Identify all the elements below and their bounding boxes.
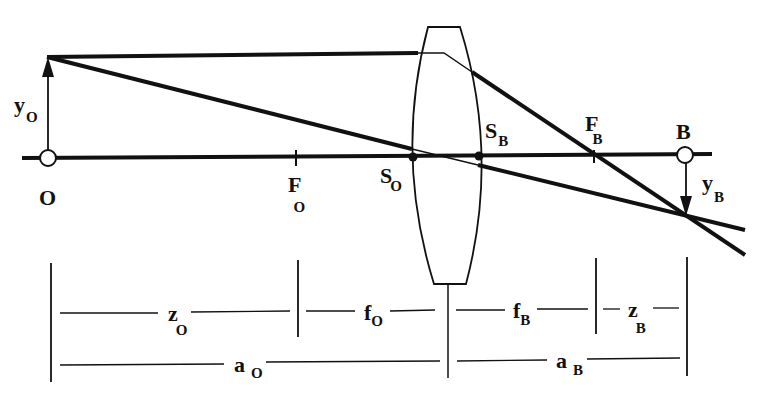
dim-label-fO: fO (364, 300, 383, 329)
label-SB: SB (485, 118, 508, 149)
label-FO: FO (288, 172, 305, 215)
object-point-marker (40, 150, 56, 166)
dim-label-aB: aB (556, 348, 583, 378)
dim-label-aO: aO (234, 352, 263, 381)
principal-point-object (409, 153, 418, 162)
parallel-ray-inside-lens (418, 53, 472, 72)
label-FB: FB (585, 111, 602, 147)
principal-ray-incident (47, 57, 412, 149)
dim-row-distance (60, 358, 680, 365)
optical-axis (22, 154, 712, 158)
label-O: O (39, 185, 56, 210)
refracted-ray-through-focus (472, 72, 745, 255)
label-B: B (676, 119, 691, 144)
parallel-ray (47, 53, 418, 57)
dim-label-fB: fB (513, 298, 530, 328)
dim-label-zB: zB (628, 297, 646, 336)
label-yB: yB (702, 170, 724, 205)
image-point-marker (677, 147, 693, 163)
label-SO: SO (380, 163, 402, 194)
label-yO: yO (14, 92, 38, 125)
principal-point-image (475, 152, 484, 161)
dim-label-zO: zO (168, 301, 187, 338)
thick-lens-ray-diagram: O yO FO SO SB FB B yB zO fO fB zB aO aB (0, 0, 769, 405)
